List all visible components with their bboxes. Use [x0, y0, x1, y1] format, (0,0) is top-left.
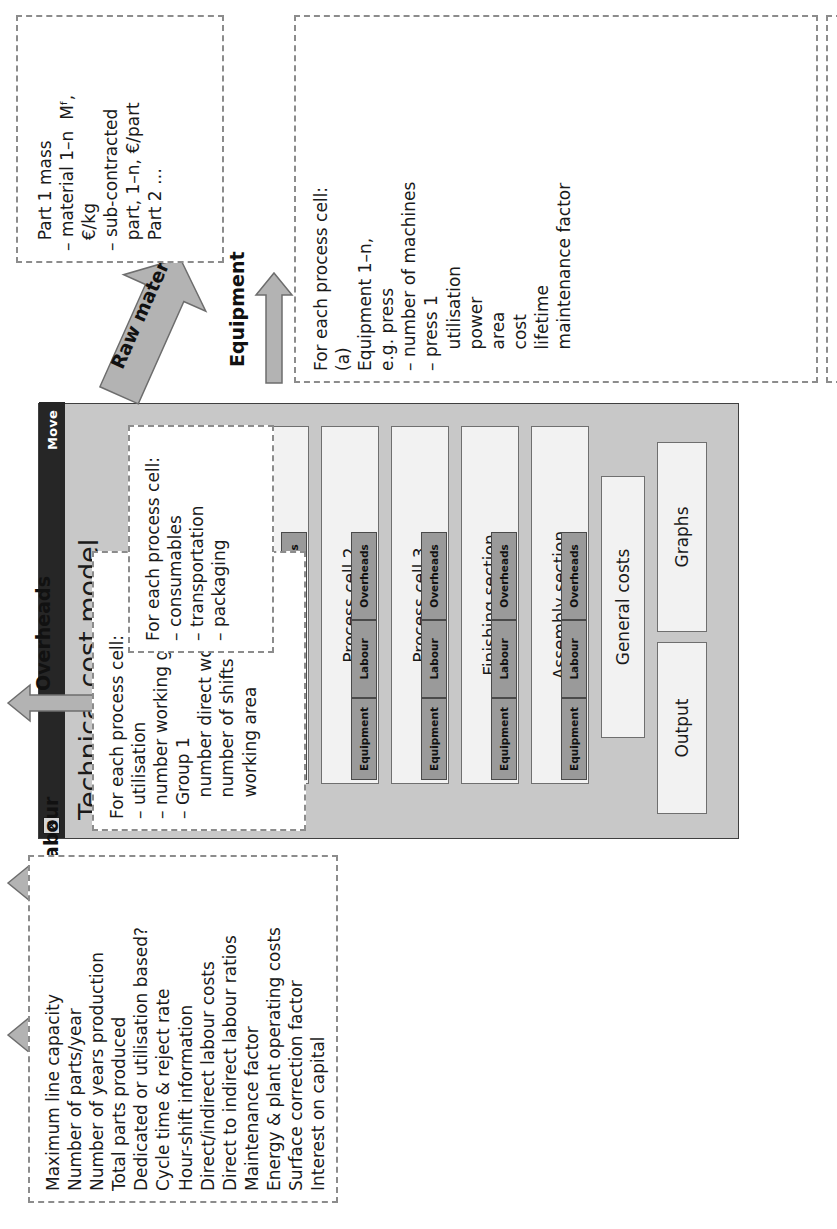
- callout-line: Maximum line capacity: [42, 867, 64, 1191]
- panel-output[interactable]: Output: [657, 642, 707, 814]
- callout-line: Direct to indirect labour ratios: [219, 867, 241, 1191]
- subcell-overheads[interactable]: Overheads: [491, 532, 517, 620]
- callout-line: Equipment 1–n,: [354, 27, 376, 371]
- callout-line: Total parts produced: [108, 867, 130, 1191]
- section-row-finishing: Finishing section Equipment Labour Overh…: [461, 426, 519, 784]
- arrow-label-equipment: Equipment: [226, 251, 248, 367]
- callout-line: Cycle time & reject rate: [152, 867, 174, 1191]
- callout-line: cost: [509, 27, 531, 371]
- subcell-equipment[interactable]: Equipment: [351, 698, 377, 780]
- callout-tooling: (b) Tooling/jigs 1-n, e.g. injection all…: [826, 15, 837, 383]
- callout-line: Interest on capital: [307, 867, 329, 1191]
- callout-line: – consumables: [164, 437, 186, 641]
- subcell-equipment[interactable]: Equipment: [421, 698, 447, 780]
- callout-equipment: For each process cell: (a) Equipment 1–n…: [294, 15, 818, 383]
- callout-line: €/kg: [78, 27, 100, 251]
- callout-line: Number of years production: [86, 867, 108, 1191]
- callout-initial-data: Maximum line capacity Number of parts/ye…: [28, 855, 338, 1203]
- subcell-labour[interactable]: Labour: [421, 620, 447, 698]
- subcell-overheads[interactable]: Overheads: [421, 532, 447, 620]
- panel-graphs[interactable]: Graphs: [657, 442, 707, 632]
- callout-raw-materials: Part 1 mass – material 1–n Mᶠ, €/kg – su…: [16, 15, 224, 263]
- subcell-labour[interactable]: Labour: [491, 620, 517, 698]
- callout-line: Part 2 …: [144, 27, 166, 251]
- callout-line: – number of machines: [398, 27, 420, 371]
- callout-line: – transportation: [186, 437, 208, 641]
- callout-line: Energy & plant operating costs: [263, 867, 285, 1191]
- arrow-equipment: [256, 273, 292, 383]
- callout-line: area: [487, 27, 509, 371]
- section-row-process-cell-2: Process cell 2 Equipment Labour Overhead…: [321, 426, 379, 784]
- figure-canvas: ✕ Move Technical cost model structure To…: [0, 0, 837, 1229]
- section-row-assembly: Assembly section Equipment Labour Overhe…: [531, 426, 589, 784]
- callout-line: part, 1–n, €/part: [122, 27, 144, 251]
- callout-line: For each process cell:: [106, 563, 128, 819]
- callout-line: Maintenance factor: [241, 867, 263, 1191]
- callout-line: Number of parts/year: [64, 867, 86, 1191]
- subcell-equipment[interactable]: Equipment: [561, 698, 587, 780]
- callout-line: (a): [332, 27, 354, 371]
- callout-line: Part 1 mass: [34, 27, 56, 251]
- subcell-labour[interactable]: Labour: [351, 620, 377, 698]
- callout-line: – press 1: [420, 27, 442, 371]
- callout-line: – packaging: [208, 437, 230, 641]
- subcell-equipment[interactable]: Equipment: [491, 698, 517, 780]
- subcell-overheads[interactable]: Overheads: [561, 532, 587, 620]
- callout-line: power: [465, 27, 487, 371]
- panel-general-costs[interactable]: General costs: [601, 476, 645, 738]
- callout-line: Surface correction factor: [285, 867, 307, 1191]
- callout-line: Direct/indirect labour costs: [197, 867, 219, 1191]
- section-row-process-cell-3: Process cell 3 Equipment Labour Overhead…: [391, 426, 449, 784]
- callout-line: For each process cell:: [142, 437, 164, 641]
- callout-line: lifetime: [531, 27, 553, 371]
- callout-overheads: For each process cell: – consumables – t…: [128, 425, 274, 653]
- callout-line: For each process cell:: [310, 27, 332, 371]
- subcell-labour[interactable]: Labour: [561, 620, 587, 698]
- callout-line: e.g. press: [376, 27, 398, 371]
- subcell-overheads[interactable]: Overheads: [351, 532, 377, 620]
- callout-line: – material 1–n Mᶠ,: [56, 27, 78, 251]
- titlebar-label: Move: [45, 410, 60, 450]
- arrow-label-overheads: Overheads: [32, 576, 54, 691]
- callout-line: maintenance factor: [553, 27, 575, 371]
- callout-line: utilisation: [443, 27, 465, 371]
- callout-line: Hour-shift information: [175, 867, 197, 1191]
- callout-line: Dedicated or utilisation based?: [130, 867, 152, 1191]
- callout-line: – sub-contracted: [100, 27, 122, 251]
